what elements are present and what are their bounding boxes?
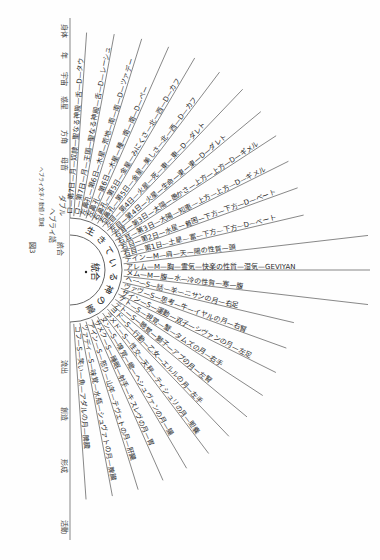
- header-label: 流出: [60, 360, 69, 374]
- book-page: 身体 年 宇宙 惑星 方角 母音 ヘブライ文字 / 数値 / 意味 ダブル ヘブ…: [0, 0, 380, 560]
- side-note: ヘブライ文字 / 数値 / 意味: [38, 167, 45, 227]
- ray-label-mothers: アレム—M—胸—霊気—快楽の性質—湿気—GEVIYAN: [126, 262, 296, 271]
- center-dot: [85, 271, 87, 273]
- center-label: 統合: [90, 263, 101, 281]
- header-label: ヘブライ語: [48, 208, 57, 243]
- ring-char: る: [107, 271, 118, 281]
- header-label: 宇宙: [60, 72, 69, 86]
- header-label: 活動: [60, 520, 69, 534]
- header-label: 母音: [60, 157, 69, 171]
- figure-caption: 図3: [28, 242, 36, 253]
- header-label: 惑星: [60, 96, 69, 110]
- header-label: 年: [60, 52, 69, 59]
- header-label: 方角: [60, 130, 69, 144]
- header-label: 身体: [60, 24, 69, 38]
- header-column-labels: 身体 年 宇宙 惑星 方角 母音 ヘブライ文字 / 数値 / 意味 ダブル ヘブ…: [28, 24, 69, 534]
- ring-char: い: [107, 258, 118, 268]
- center-header-label: 統合: [56, 242, 65, 256]
- hebrew-letter-radial-diagram: 身体 年 宇宙 惑星 方角 母音 ヘブライ文字 / 数値 / 意味 ダブル ヘブ…: [0, 0, 380, 560]
- header-label: 形成: [60, 459, 69, 473]
- header-label: 創造: [60, 407, 69, 421]
